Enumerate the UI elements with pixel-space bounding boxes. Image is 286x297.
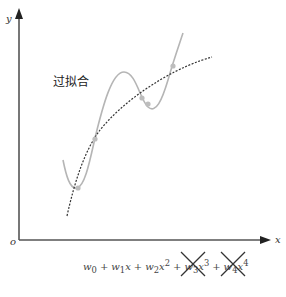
plus-sign: + [134,261,142,272]
origin-label: o [10,236,16,247]
data-point [139,95,144,100]
data-point [92,136,97,141]
formula-term-0: w0 [83,261,97,275]
data-points [75,63,175,190]
formula-term-4-crossed: w4x4 [224,258,249,275]
overfit-curve [63,33,183,188]
x-axis-label: x [275,234,281,245]
data-point [145,101,150,106]
formula-term-2: w2x2 [145,258,170,275]
y-axis-arrow-icon [15,8,23,19]
overfitting-label: 过拟合 [53,74,89,89]
formula-term-1: w1x [111,261,131,275]
x-axis-arrow-icon [260,236,271,244]
cross-out-icon [180,251,206,277]
cross-out-icon [220,251,246,277]
data-point [75,185,80,190]
plus-sign: + [100,261,108,272]
data-point [170,63,175,68]
polynomial-formula: w0+w1x+w2x2+w3x3+w4x4 [83,258,243,280]
formula-term-3-crossed: w3x3 [184,258,209,275]
y-axis-label: y [5,13,12,24]
